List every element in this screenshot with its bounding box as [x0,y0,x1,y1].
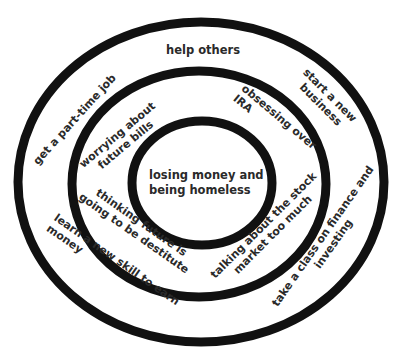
center-label-line: losing money and [149,168,264,183]
center-label: losing money and being homeless [149,168,264,198]
label-help-others: help others [166,44,240,57]
label-line: help others [166,44,240,57]
center-label-line: being homeless [149,183,264,198]
